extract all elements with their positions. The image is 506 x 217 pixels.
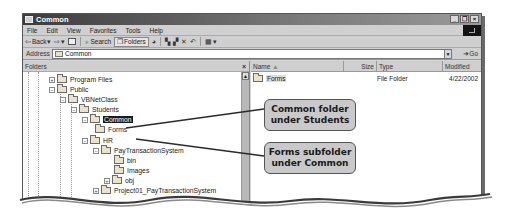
sort-ascending-icon: ▲ (272, 63, 278, 70)
go-button[interactable]: ➜Go (463, 50, 478, 58)
views-button[interactable]: ▦▾ (205, 38, 217, 46)
callout-common-folder: Common folder under Students (264, 99, 356, 131)
back-icon: ⇦ (25, 38, 31, 46)
folder-icon (114, 157, 124, 164)
folders-icon: ❐ (117, 38, 123, 46)
forward-icon: ⇨ (54, 38, 60, 46)
menu-edit[interactable]: Edit (46, 27, 57, 34)
folder-icon (95, 126, 105, 133)
title-bar[interactable]: Common _ ❐ × (23, 14, 481, 25)
search-button[interactable]: ⌕Search (85, 38, 111, 46)
toolbar-divider (80, 37, 81, 46)
folder-icon (90, 137, 100, 144)
copy-to-button[interactable]: ▞ (173, 38, 178, 46)
minimize-button[interactable]: _ (450, 15, 459, 23)
window-title: Common (36, 15, 69, 24)
expand-icon[interactable]: + (104, 178, 110, 184)
close-button[interactable]: × (470, 15, 479, 23)
back-button[interactable]: ⇦Back▾ (25, 38, 51, 46)
views-icon: ▦ (205, 38, 212, 46)
move-to-icon: ▚ (165, 38, 170, 46)
collapse-icon[interactable]: − (60, 97, 66, 103)
undo-icon: ↶ (190, 38, 196, 46)
collapse-icon[interactable]: − (71, 107, 77, 113)
chevron-down-icon[interactable]: ▾ (47, 38, 51, 46)
menu-bar: File Edit View Favorites Tools Help (23, 25, 481, 36)
delete-icon: ✕ (181, 38, 187, 46)
folders-pane-header: Folders × (23, 61, 249, 72)
chevron-down-icon[interactable]: ▾ (213, 38, 217, 46)
delete-button[interactable]: ✕ (181, 38, 187, 46)
scroll-up-icon[interactable]: ▲ (242, 72, 249, 80)
tree-item-forms[interactable]: Forms (95, 124, 127, 135)
copy-to-icon: ▞ (173, 38, 178, 46)
forward-button[interactable]: ⇨▾ (54, 38, 65, 46)
column-header-type[interactable]: Type (377, 61, 443, 72)
undo-button[interactable]: ↶ (190, 38, 196, 46)
tree-item-paytransactionsystem[interactable]: −PayTransactionSystem (93, 145, 184, 156)
up-folder-button[interactable] (68, 38, 76, 45)
open-folder-icon (90, 116, 100, 123)
address-bar: Address Common ▼ ➜Go (23, 48, 481, 60)
folder-icon (55, 51, 63, 57)
expand-icon[interactable]: + (49, 77, 55, 83)
folders-pane-title: Folders (25, 63, 47, 70)
folder-icon (112, 177, 122, 184)
history-button[interactable]: ◕ (152, 38, 156, 45)
folder-icon (253, 75, 263, 82)
folder-icon (79, 106, 89, 113)
folder-icon (101, 147, 111, 154)
folders-button[interactable]: ❐Folders (114, 37, 149, 47)
chevron-down-icon[interactable]: ▾ (61, 38, 65, 46)
toolbar-divider (200, 37, 201, 46)
folder-icon (68, 96, 78, 103)
menu-favorites[interactable]: Favorites (90, 27, 117, 34)
address-dropdown-button[interactable]: ▼ (444, 49, 452, 59)
move-to-button[interactable]: ▚ (165, 38, 170, 46)
file-row[interactable]: Forms File Folder 4/22/2002 (251, 73, 481, 84)
toolbar: ⇦Back▾ ⇨▾ ⌕Search ❐Folders ◕ ▚ ▞ ✕ ↶ ▦▾ (23, 36, 481, 48)
folder-window-icon (25, 16, 33, 23)
column-header-modified[interactable]: Modified (443, 61, 481, 72)
search-icon: ⌕ (85, 38, 89, 46)
up-folder-icon (68, 38, 76, 45)
menu-file[interactable]: File (27, 27, 37, 34)
collapse-icon[interactable]: − (49, 87, 55, 93)
address-label: Address (26, 50, 50, 57)
folder-icon (57, 86, 67, 93)
close-pane-button[interactable]: × (242, 61, 246, 72)
windows-logo-icon (463, 25, 481, 36)
column-header-size[interactable]: Size (344, 61, 377, 72)
menu-help[interactable]: Help (150, 27, 163, 34)
toolbar-divider (160, 37, 161, 46)
callout-forms-subfolder: Forms subfolder under Common (264, 142, 356, 174)
torn-edge-decoration (0, 188, 506, 217)
restore-button[interactable]: ❐ (460, 15, 469, 23)
menu-tools[interactable]: Tools (125, 27, 140, 34)
folder-icon (114, 167, 124, 174)
collapse-icon[interactable]: − (82, 117, 88, 123)
address-input[interactable]: Common (52, 49, 452, 59)
menu-view[interactable]: View (67, 27, 81, 34)
collapse-icon[interactable]: − (82, 138, 88, 144)
column-header-name[interactable]: Name ▲ (251, 61, 344, 72)
collapse-icon[interactable]: − (93, 148, 99, 154)
explorer-window: Common _ ❐ × File Edit View Favorites To… (22, 13, 482, 213)
history-icon: ◕ (152, 38, 156, 45)
folder-icon (57, 76, 67, 83)
